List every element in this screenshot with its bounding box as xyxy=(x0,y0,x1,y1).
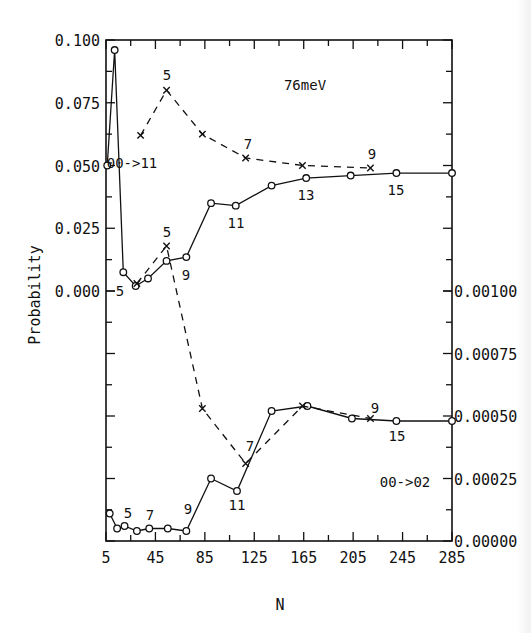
axis-labels: 545851251652052452850.0000.0250.0500.075… xyxy=(55,32,517,567)
point-annotation: 9 xyxy=(371,400,379,416)
circle-marker-icon xyxy=(134,528,141,535)
series-left-dashed xyxy=(137,87,373,171)
x-tick-label: 205 xyxy=(340,549,367,567)
point-annotation: 15 xyxy=(389,428,406,444)
circle-marker-icon xyxy=(268,408,275,415)
circle-marker-icon xyxy=(347,172,354,179)
x-marker-icon xyxy=(163,243,169,249)
circle-marker-icon xyxy=(393,170,400,177)
circle-marker-icon xyxy=(183,254,190,261)
circle-marker-icon xyxy=(303,175,310,182)
x-marker-icon xyxy=(163,87,169,93)
x-tick-label: 285 xyxy=(438,549,465,567)
circle-marker-icon xyxy=(164,525,171,532)
x-tick-label: 125 xyxy=(241,549,268,567)
circle-marker-icon xyxy=(349,415,356,422)
point-annotation: 9 xyxy=(184,501,192,517)
point-annotation: 11 xyxy=(229,497,246,513)
circle-marker-icon xyxy=(234,488,241,495)
point-annotation: 00->02 xyxy=(380,474,431,490)
circle-marker-icon xyxy=(121,523,128,530)
point-annotation: 5 xyxy=(163,224,171,240)
point-annotation: 5 xyxy=(163,67,171,83)
circle-marker-icon xyxy=(208,475,215,482)
data-series xyxy=(104,47,455,535)
circle-marker-icon xyxy=(208,200,215,207)
x-marker-icon xyxy=(199,131,205,137)
left-tick-label: 0.025 xyxy=(55,220,100,238)
circle-marker-icon xyxy=(232,202,239,209)
probability-chart: 545851251652052452850.0000.0250.0500.075… xyxy=(0,0,531,633)
left-tick-label: 0.000 xyxy=(55,283,100,301)
plot-border xyxy=(106,40,452,541)
x-marker-icon xyxy=(367,165,373,171)
circle-marker-icon xyxy=(114,525,121,532)
x-marker-icon xyxy=(242,460,248,466)
point-annotations: 76meV00->1157955911131557911791500->02 xyxy=(107,67,431,523)
x-tick-label: 45 xyxy=(146,549,164,567)
right-tick-label: 0.00050 xyxy=(454,408,517,426)
left-tick-label: 0.050 xyxy=(55,158,100,176)
point-annotation: 00->11 xyxy=(107,155,158,171)
series-right-solid xyxy=(106,403,455,535)
point-annotation: 5 xyxy=(116,283,124,299)
circle-marker-icon xyxy=(111,47,118,54)
series-line xyxy=(137,246,371,464)
point-annotation: 7 xyxy=(246,438,254,454)
x-axis-title: N xyxy=(275,596,284,614)
series-line xyxy=(107,50,452,286)
right-tick-label: 0.00100 xyxy=(454,283,517,301)
circle-marker-icon xyxy=(183,528,190,535)
circle-marker-icon xyxy=(146,525,153,532)
circle-marker-icon xyxy=(393,418,400,425)
point-annotation: 7 xyxy=(244,136,252,152)
x-tick-label: 245 xyxy=(389,549,416,567)
point-annotation: 76meV xyxy=(284,77,327,93)
circle-marker-icon xyxy=(120,269,127,276)
axis-ticks xyxy=(106,40,452,541)
circle-marker-icon xyxy=(268,182,275,189)
series-line xyxy=(141,90,371,168)
series-right-dashed xyxy=(134,243,374,467)
right-tick-label: 0.00025 xyxy=(454,471,517,489)
circle-marker-icon xyxy=(145,275,152,282)
x-marker-icon xyxy=(137,132,143,138)
point-annotation: 7 xyxy=(146,507,154,523)
right-tick-label: 0.00000 xyxy=(454,533,517,551)
y-axis-title: Probability xyxy=(26,245,44,344)
circle-marker-icon xyxy=(449,170,456,177)
point-annotation: 13 xyxy=(298,187,315,203)
left-tick-label: 0.100 xyxy=(55,32,100,50)
point-annotation: 11 xyxy=(228,215,245,231)
x-tick-label: 5 xyxy=(101,549,110,567)
circle-marker-icon xyxy=(163,258,170,265)
x-tick-label: 165 xyxy=(290,549,317,567)
right-tick-label: 0.00075 xyxy=(454,346,517,364)
plot-frame xyxy=(106,40,452,541)
left-tick-label: 0.075 xyxy=(55,95,100,113)
point-annotation: 9 xyxy=(368,146,376,162)
series-line xyxy=(110,406,452,531)
point-annotation: 9 xyxy=(182,267,190,283)
point-annotation: 15 xyxy=(388,182,405,198)
x-tick-label: 85 xyxy=(196,549,214,567)
circle-marker-icon xyxy=(106,510,113,517)
point-annotation: 5 xyxy=(124,505,132,521)
